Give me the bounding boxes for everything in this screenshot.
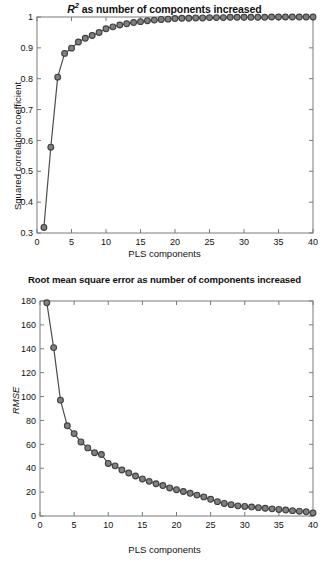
x-tick-label: 25	[206, 520, 216, 530]
x-tick-label: 0	[37, 520, 42, 530]
data-point-marker	[248, 14, 254, 20]
data-point-marker	[124, 21, 130, 27]
y-tick-label: 40	[26, 463, 36, 473]
data-point-marker	[241, 14, 247, 20]
x-tick-label: 10	[103, 520, 113, 530]
data-point-marker	[103, 26, 109, 32]
data-point-marker	[172, 16, 178, 22]
data-point-marker	[221, 501, 227, 507]
y-tick-label: 0	[31, 511, 36, 521]
data-point-marker	[242, 504, 248, 510]
data-point-marker	[201, 494, 207, 500]
data-point-marker	[138, 19, 144, 25]
data-point-marker	[76, 39, 82, 45]
data-point-marker	[41, 225, 47, 231]
data-point-marker	[269, 14, 275, 20]
data-point-marker	[126, 470, 132, 476]
data-point-marker	[256, 505, 262, 511]
data-point-marker	[58, 397, 64, 403]
y-tick-label: 0.3	[20, 228, 33, 238]
data-point-marker	[296, 14, 302, 20]
data-point-marker	[62, 51, 68, 57]
x-tick-label: 35	[273, 237, 283, 245]
rmse-chart-title: Root mean square error as number of comp…	[0, 274, 329, 285]
data-point-marker	[310, 510, 316, 516]
data-point-marker	[158, 17, 164, 23]
x-tick-label: 35	[274, 520, 284, 530]
data-point-marker	[153, 481, 159, 487]
data-point-marker	[255, 14, 261, 20]
panel-rmse-chart: Root mean square error as number of comp…	[0, 272, 329, 563]
data-point-marker	[215, 499, 221, 505]
data-point-marker	[249, 504, 255, 510]
series-line	[47, 303, 313, 513]
data-point-marker	[234, 14, 240, 20]
data-point-marker	[78, 439, 84, 445]
data-point-marker	[89, 33, 95, 39]
data-point-marker	[145, 18, 151, 24]
x-tick-label: 5	[69, 237, 74, 245]
data-point-marker	[200, 15, 206, 21]
data-point-marker	[131, 20, 137, 26]
data-point-marker	[276, 14, 282, 20]
plot-box	[37, 17, 313, 233]
data-point-marker	[99, 452, 105, 458]
x-tick-label: 30	[239, 237, 249, 245]
r2-plot-area: 05101520253035400.30.40.50.60.70.80.91	[0, 0, 329, 245]
data-point-marker	[160, 483, 166, 489]
rmse-plot-area: 0510152025303540020406080100120140160180	[0, 286, 329, 548]
x-tick-label: 15	[135, 237, 145, 245]
y-tick-label: 140	[21, 344, 36, 354]
data-point-marker	[133, 473, 139, 479]
data-point-marker	[71, 431, 77, 437]
data-point-marker	[283, 507, 289, 513]
data-point-marker	[208, 496, 214, 502]
data-point-marker	[167, 485, 173, 491]
x-tick-label: 15	[137, 520, 147, 530]
data-point-marker	[92, 450, 98, 456]
data-point-marker	[146, 478, 152, 484]
data-point-marker	[51, 345, 57, 351]
y-tick-label: 100	[21, 392, 36, 402]
plot-box	[40, 301, 313, 516]
data-point-marker	[235, 503, 241, 509]
data-point-marker	[117, 22, 123, 28]
x-tick-label: 25	[204, 237, 214, 245]
y-tick-label: 1	[28, 12, 33, 22]
data-point-marker	[310, 14, 316, 20]
data-point-marker	[214, 15, 220, 21]
data-point-marker	[82, 35, 88, 41]
y-tick-label: 80	[26, 416, 36, 426]
y-tick-label: 20	[26, 487, 36, 497]
data-point-marker	[228, 502, 234, 508]
rmse-x-axis-label: PLS components	[0, 544, 329, 555]
data-point-marker	[227, 14, 233, 20]
x-tick-label: 5	[72, 520, 77, 530]
data-point-marker	[174, 487, 180, 493]
data-point-marker	[303, 14, 309, 20]
data-point-marker	[283, 14, 289, 20]
data-point-marker	[165, 16, 171, 22]
x-tick-label: 0	[34, 237, 39, 245]
data-point-marker	[139, 476, 145, 482]
figure-two-panel-pls-diagnostics: R2 as number of components increased 051…	[0, 0, 329, 563]
data-point-marker	[303, 509, 309, 515]
data-point-marker	[119, 467, 125, 473]
data-point-marker	[151, 17, 157, 23]
data-point-marker	[69, 45, 75, 51]
data-point-marker	[269, 506, 275, 512]
x-tick-label: 40	[308, 237, 318, 245]
data-point-marker	[194, 492, 200, 498]
series-line	[44, 17, 313, 227]
x-tick-label: 40	[308, 520, 318, 530]
data-point-marker	[96, 30, 102, 36]
y-tick-label: 0.9	[20, 43, 33, 53]
x-tick-label: 10	[101, 237, 111, 245]
data-point-marker	[110, 24, 116, 30]
y-tick-label: 120	[21, 368, 36, 378]
y-tick-label: 180	[21, 296, 36, 306]
x-tick-label: 20	[171, 520, 181, 530]
data-point-marker	[64, 423, 70, 429]
data-point-marker	[276, 507, 282, 513]
data-point-marker	[296, 508, 302, 514]
